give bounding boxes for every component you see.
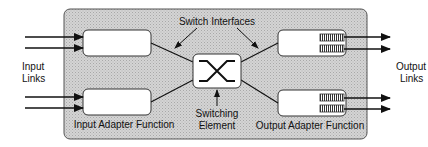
output-adapter-label: Output Adapter Function [256,120,364,131]
output-links-label-2: Links [400,73,423,84]
queue-icon [320,45,344,52]
switch-architecture-diagram: Switch Interfaces Input Links Output Lin… [0,0,428,147]
input-adapter-label: Input Adapter Function [74,119,175,130]
output-adapter-box-bottom [278,90,346,116]
input-adapter-box-top [83,30,151,56]
switching-label: Switching [196,108,239,119]
switching-element [193,54,241,88]
switch-interfaces-label: Switch Interfaces [179,16,255,27]
output-adapter-box-top [278,30,346,56]
input-links-label-2: Links [22,73,45,84]
queue-icon [320,105,344,112]
queue-icon [320,94,344,101]
queue-icon [320,34,344,41]
input-adapter-box-bottom [83,89,151,115]
output-links-label: Output [396,61,426,72]
input-links-label: Input [22,61,44,72]
element-label: Element [199,120,236,131]
